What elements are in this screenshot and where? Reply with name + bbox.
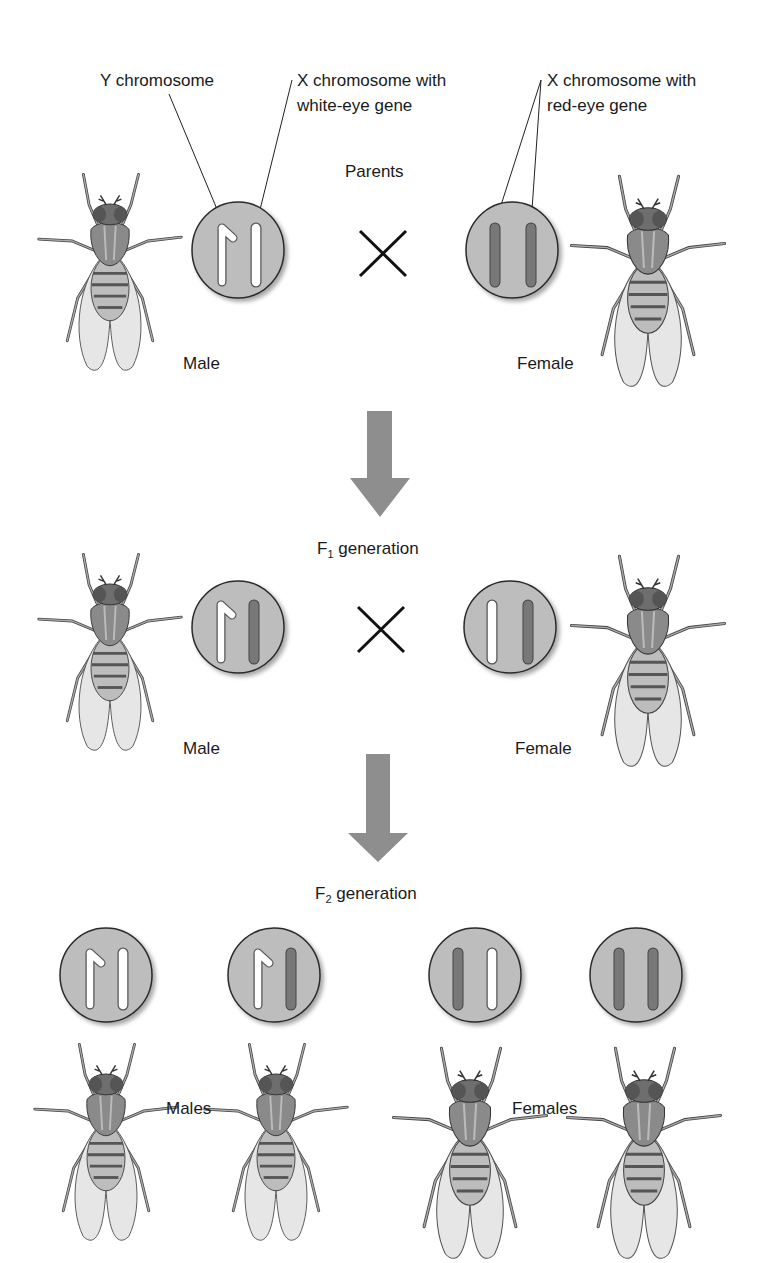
f1-female-fly: [572, 556, 725, 766]
label-parents-male: Male: [183, 351, 220, 376]
parent-female-chromosome-circle: [466, 202, 558, 298]
label-parents-female: Female: [517, 351, 574, 376]
f2-male2-chromosome-circle: [228, 928, 320, 1022]
f1-female-chromosome-circle: [464, 581, 556, 673]
label-f2-females: Females: [512, 1096, 577, 1121]
label-x-red-eye-line2: red-eye gene: [547, 93, 647, 118]
arrow-f1-to-f2: [348, 754, 408, 862]
f1-male-fly: [39, 555, 182, 751]
label-f1-generation: F1 generation: [317, 536, 419, 567]
label-f2-males: Males: [166, 1096, 211, 1121]
f2-male1-fly: [35, 1045, 178, 1241]
label-x-white-eye-line2: white-eye gene: [297, 93, 412, 118]
f2-female1-chromosome-circle: [429, 928, 521, 1022]
f2-female2-fly: [568, 1048, 721, 1258]
diagram-graphics: [0, 0, 770, 1263]
arrow-parents-to-f1: [350, 411, 410, 517]
label-y-chromosome: Y chromosome: [100, 68, 214, 93]
parent-male-fly: [39, 175, 182, 371]
f1-cross-symbol: [358, 607, 404, 652]
label-x-white-eye-line1: X chromosome with: [297, 68, 446, 93]
f2-male2-fly: [205, 1045, 348, 1241]
parents-cross-symbol: [360, 231, 406, 276]
label-f1-female: Female: [515, 736, 572, 761]
f2-female1-fly: [394, 1048, 547, 1258]
parent-male-chromosome-circle: [192, 202, 284, 298]
label-f2-generation: F2 generation: [315, 881, 417, 912]
f1-male-chromosome-circle: [192, 581, 284, 673]
label-parents: Parents: [345, 159, 404, 184]
label-f1-male: Male: [183, 736, 220, 761]
parent-female-fly: [572, 176, 725, 386]
f2-female2-chromosome-circle: [590, 928, 682, 1022]
f2-male1-chromosome-circle: [60, 928, 152, 1022]
label-x-red-eye-line1: X chromosome with: [547, 68, 696, 93]
